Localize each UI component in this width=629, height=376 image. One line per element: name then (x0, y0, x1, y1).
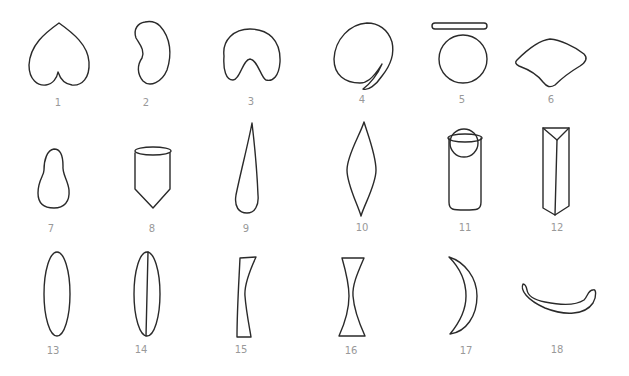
label-16: 16 (336, 345, 366, 356)
circle-with-tail-shape (334, 23, 393, 89)
fan-shape (516, 39, 586, 87)
pear-shape (38, 149, 69, 208)
label-3: 3 (236, 96, 266, 107)
label-12: 12 (542, 222, 572, 233)
label-2: 2 (131, 97, 161, 108)
heart-shape (29, 23, 89, 85)
label-1: 1 (43, 97, 73, 108)
label-5: 5 (447, 94, 477, 105)
label-9: 9 (231, 223, 261, 234)
spindle-shape (347, 122, 376, 216)
label-17: 17 (451, 345, 481, 356)
label-10: 10 (347, 222, 377, 233)
narrow-teardrop-shape (236, 123, 259, 213)
crescent-shape (449, 257, 477, 334)
ellipse-shape (44, 252, 70, 336)
split-ellipse-shape (134, 252, 160, 336)
plano-concave-shape (237, 257, 256, 337)
pointed-cylinder-shape (135, 147, 171, 208)
label-14: 14 (126, 344, 156, 355)
label-18: 18 (542, 344, 572, 355)
biconcave-shape (339, 258, 365, 336)
shapes-canvas (0, 0, 629, 376)
kidney-shape (135, 22, 170, 84)
label-15: 15 (226, 344, 256, 355)
label-4: 4 (347, 94, 377, 105)
horseshoe-shape (224, 29, 280, 80)
label-7: 7 (36, 223, 66, 234)
label-11: 11 (450, 222, 480, 233)
curved-bar-shape (522, 284, 595, 313)
disc-and-circle-shape (432, 23, 487, 83)
label-8: 8 (137, 223, 167, 234)
triangular-prism-shape (543, 128, 569, 215)
label-6: 6 (536, 94, 566, 105)
cylinder-with-sphere-shape (448, 129, 482, 210)
label-13: 13 (38, 345, 68, 356)
